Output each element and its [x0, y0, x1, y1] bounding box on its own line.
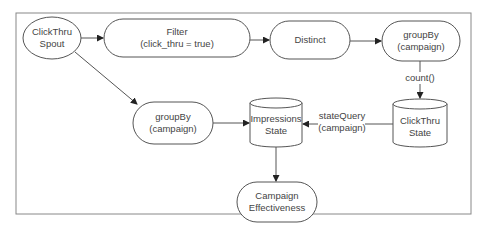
distinct-label: Distinct [294, 34, 325, 46]
campaign-effectiveness-label: CampaignEffectiveness [249, 190, 305, 214]
groupby-left-label: groupBy(campaign) [149, 111, 197, 135]
clickthru-state-label: ClickThruState [400, 115, 440, 139]
groupby-top-label: groupBy(campaign) [397, 29, 445, 53]
filter-label: Filter(click_thru = true) [140, 26, 214, 50]
state-query-edge-label: stateQuery(campaign) [318, 110, 366, 134]
impressions-state-label: ImpressionsState [250, 113, 301, 137]
count-edge-label: count() [405, 72, 435, 84]
spout-label: ClickThruSpout [32, 26, 72, 50]
